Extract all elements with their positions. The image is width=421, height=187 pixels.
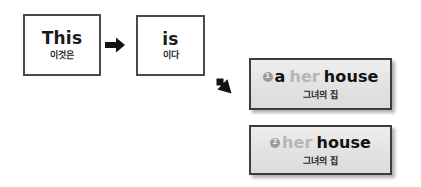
word-box-is: is 이다 [136,15,205,76]
word-box-english: This [42,30,82,48]
phrase-token-1: a [275,69,286,85]
arrow-right-icon [104,36,126,54]
phrase-number-badge: 2 [270,138,280,148]
phrase-line: 1 a her house [263,69,379,85]
phrase-line: 2 her house [270,135,371,151]
phrase-number-badge: 1 [263,72,273,82]
arrow-down-right-icon [214,76,234,96]
phrase-token-2: house [316,135,371,151]
phrase-token-2: her [289,69,319,85]
phrase-token-1: her [282,135,312,151]
word-box-english: is [162,31,178,49]
slide-canvas: This 이것은 is 이다 1 a her house 그녀의 집 2 [0,0,421,187]
phrase-korean: 그녀의 집 [303,91,338,100]
phrase-token-3: house [324,69,379,85]
phrase-korean: 그녀의 집 [303,157,338,166]
phrase-panel-2: 2 her house 그녀의 집 [249,125,392,175]
word-box-korean: 이것은 [50,51,74,60]
phrase-panel-1: 1 a her house 그녀의 집 [249,58,392,110]
word-box-this: This 이것은 [23,14,101,76]
word-box-korean: 이다 [163,51,179,60]
